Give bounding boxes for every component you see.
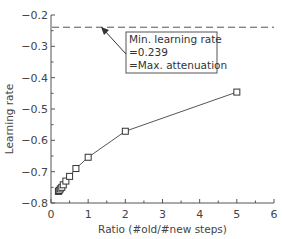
square-marker — [122, 128, 128, 134]
x-tick-label: 5 — [233, 208, 240, 221]
square-marker — [67, 173, 73, 179]
x-tick-label: 6 — [271, 208, 278, 221]
y-tick-label: −0.6 — [21, 134, 48, 147]
square-marker — [85, 154, 91, 160]
y-tick-label: −0.5 — [21, 103, 48, 116]
annotation-arrow-line — [104, 30, 126, 54]
y-tick-label: −0.7 — [21, 166, 48, 179]
chart: 0123456−0.2−0.3−0.4−0.5−0.6−0.7−0.8Ratio… — [0, 0, 282, 239]
x-tick-label: 0 — [48, 208, 55, 221]
y-tick-label: −0.4 — [21, 72, 48, 85]
x-tick-label: 4 — [196, 208, 203, 221]
x-tick-label: 3 — [159, 208, 166, 221]
y-tick-label: −0.2 — [21, 9, 48, 22]
x-tick-label: 2 — [122, 208, 129, 221]
annotation: Min. learning rate=0.239=Max. attenuatio… — [101, 27, 227, 73]
y-axis-title: Learning rate — [3, 84, 15, 154]
x-axis-title: Ratio (#old/#new steps) — [98, 223, 227, 235]
y-tick-label: −0.3 — [21, 40, 48, 53]
y-tick-label: −0.8 — [21, 197, 48, 210]
annotation-text: =Max. attenuation — [129, 59, 227, 71]
data-curve — [58, 92, 236, 191]
square-marker — [234, 89, 240, 95]
annotation-text: Min. learning rate — [129, 33, 222, 45]
square-marker — [73, 166, 79, 172]
x-tick-label: 1 — [85, 208, 92, 221]
annotation-text: =0.239 — [129, 46, 168, 58]
